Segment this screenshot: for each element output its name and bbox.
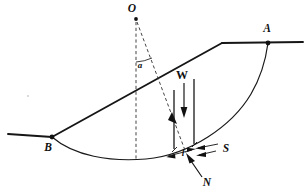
- left-ground-surface-line: [8, 134, 52, 137]
- label-crest-point: A: [262, 22, 271, 34]
- weight-vector-arrowhead: [181, 107, 188, 118]
- crest-point-dot: [266, 41, 271, 46]
- crest-ground-surface-line: [222, 42, 303, 43]
- slope-face-line: [52, 43, 222, 137]
- toe-point-dot: [50, 135, 55, 140]
- scan-speck: [27, 95, 29, 97]
- label-normal-force: N: [202, 176, 212, 188]
- inclined-radius-dashed-line: [137, 22, 186, 153]
- shear-vector-arrowhead-upper: [195, 145, 205, 150]
- base-dim-arrowhead-right: [187, 148, 196, 152]
- label-center-of-rotation: O: [128, 2, 136, 14]
- label-slice-weight: W: [176, 68, 188, 82]
- center-of-rotation-dot: [134, 17, 138, 21]
- failure-arc: [52, 43, 268, 160]
- label-base-length: l: [182, 148, 185, 158]
- label-angle: a: [138, 60, 143, 70]
- slope-stability-diagram: O A B a W S N l: [0, 0, 306, 192]
- shear-vector-arrowhead-lower: [196, 152, 206, 157]
- inclined-radius-arrowhead: [168, 112, 177, 124]
- label-toe-point: B: [43, 141, 52, 153]
- normal-vector-arrowhead: [186, 153, 195, 164]
- slope-figure-svg: O A B a W S N l: [0, 0, 306, 192]
- label-shear-force: S: [223, 142, 229, 154]
